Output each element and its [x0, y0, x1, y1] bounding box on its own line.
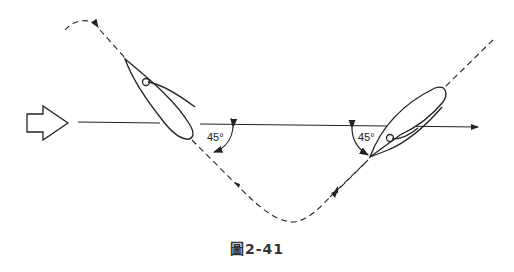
right-boat [370, 87, 446, 157]
heading-line-right [200, 124, 478, 127]
course-arrow-down-left [234, 182, 240, 188]
angle-label-left: 45° [207, 131, 224, 143]
wind-arrow-icon [27, 106, 68, 140]
angle-label-right: 45° [358, 131, 375, 143]
sailing-diagram: 45° 45° [0, 0, 514, 272]
heading-line [78, 122, 160, 123]
left-boat [125, 59, 195, 139]
figure-caption: 圖2-41 [0, 238, 514, 258]
